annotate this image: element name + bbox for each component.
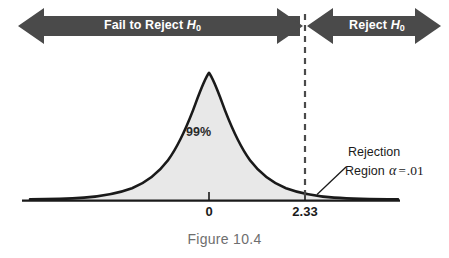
rejection-region-leader-line	[317, 167, 346, 195]
fail-to-reject-label-symbol: H	[187, 18, 196, 32]
reject-label-symbol: H	[391, 18, 400, 32]
reject-label-subscript: 0	[400, 23, 405, 33]
figure-caption: Figure 10.4	[0, 232, 449, 246]
fail-to-reject-label: Fail to Reject H0	[0, 19, 305, 33]
reject-label: Reject H0	[305, 19, 449, 33]
statistics-figure: Fail to Reject H0 Reject H0 99% Rejectio…	[0, 0, 449, 258]
equals-symbol: =	[397, 163, 406, 178]
normal-curve-fill	[30, 73, 398, 201]
alpha-value: .01	[407, 163, 424, 178]
x-axis-tick-label-critical: 2.33	[283, 205, 327, 218]
fail-to-reject-label-text: Fail to Reject	[104, 18, 183, 32]
rejection-region-label-line1: Rejection	[348, 146, 400, 159]
reject-label-text: Reject	[349, 18, 387, 32]
confidence-percent-label: 99%	[186, 126, 211, 139]
rejection-region-word: Region	[345, 164, 385, 178]
distribution-diagram	[0, 0, 449, 258]
fail-to-reject-label-subscript: 0	[196, 23, 201, 33]
rejection-region-label-line2: Region α=.01	[345, 164, 424, 178]
x-axis-tick-label-center: 0	[194, 205, 224, 218]
